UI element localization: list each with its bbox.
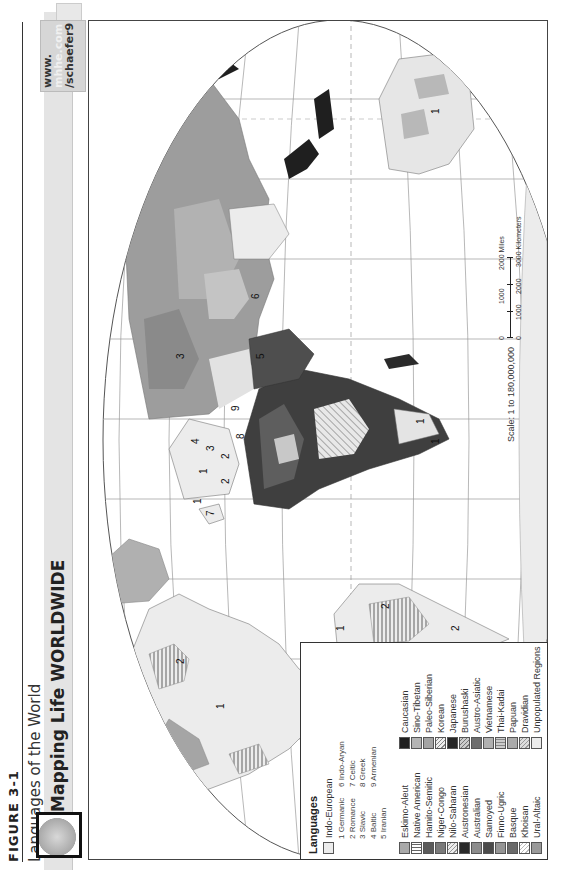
legend-label: Niger-Congo [436,787,446,838]
swatch [483,737,494,749]
swatch [447,737,458,749]
swatch [519,737,530,749]
legend-label: Burushaski [460,688,470,733]
subgroup-germanic: 1 Germanic [337,798,348,839]
legend-label: Hamito-Semitic [424,777,434,838]
label-south-america-south: 2 [450,625,461,631]
subgroup-iranian: 5 Iranian [379,798,390,839]
url-line3: /schaefer9 [64,23,75,88]
swatch [495,842,506,854]
legend-label: Sino-Tibetan [412,682,422,733]
label-caribbean: 1 [335,625,346,631]
legend-label: Ural-Altaic [532,796,542,838]
url-link[interactable]: www. mhhe.com /schaefer9 [42,23,75,88]
legend-label: Caucasian [400,690,410,733]
scale-bar [510,258,511,338]
legend-item: Thai-Kadai [495,689,506,749]
legend-item: Khoisan [519,805,530,854]
label-armenia: 9 [230,405,241,411]
legend-item: Nilo-Saharan [447,785,458,854]
legend-label: Samoyed [484,800,494,838]
banner-title: Mapping Life WORLDWIDE [48,560,68,812]
legend-item: Australian [471,798,482,854]
label-greece: 8 [235,433,246,439]
swatch [531,842,542,854]
label-iran: 5 [255,353,266,359]
legend-item: Vietnamese [483,686,494,749]
miles-tick-1000: 1000 [498,288,505,304]
miles-tick-2000: 2000 Miles [498,236,505,270]
label-south-africa-west: 1 [430,438,441,444]
legend-label: Thai-Kadai [496,689,506,733]
legend-label: Japanese [448,694,458,733]
legend-label: Nilo-Saharan [448,785,458,838]
label-india: 6 [250,293,261,299]
map-legend: Languages Indo-European 1 Germanic 2 Rom… [300,642,548,860]
figure-label: FIGURE 3-1 [6,770,21,862]
legend-label: Australian [472,798,482,838]
scale-tick [507,257,513,258]
legend-item: Ural-Altaic [531,796,542,854]
legend-item: Austro-Asiatic [471,677,482,749]
label-ireland: 7 [205,510,216,516]
swatch [531,737,542,749]
legend-item: Papuan [507,702,518,749]
km-tick-2000: 2000 [515,278,522,294]
legend-item: Native American [411,772,422,854]
scale-indicator: Scale: 1 to 180,000,000 0 1000 2000 Mile… [496,192,536,442]
legend-title: Languages [307,796,319,854]
legend-label: Papuan [508,702,518,733]
legend-item: Austronesian [459,785,470,854]
swatch [507,842,518,854]
legend-label: Native American [412,772,422,838]
swatch [519,842,530,854]
label-quebec: 2 [175,658,186,664]
subgroup-celtic: 7 Celtic [348,741,359,787]
swatch [399,737,410,749]
swatch [435,737,446,749]
legend-item: Hamito-Semitic [423,777,434,854]
km-tick-0: 0 [515,336,522,340]
legend-label: Eskimo-Aleut [400,785,410,838]
label-poland: 3 [205,445,216,451]
legend-label: Finno-Ugric [496,791,506,838]
indo-european-subgroups-right: 6 Indo-Aryan 7 Celtic 8 Greek 9 Armenian [337,741,379,787]
legend-label: Vietnamese [484,686,494,733]
legend-label: Basque [508,807,518,838]
subgroup-greek: 8 Greek [358,741,369,787]
legend-label: Paleo-Siberian [424,674,434,733]
label-brazil: 2 [380,603,391,609]
subgroup-indo-aryan: 6 Indo-Aryan [337,741,348,787]
legend-label: Austronesian [460,785,470,838]
legend-item: Korean [435,704,446,749]
swatch [471,842,482,854]
subgroup-armenian: 9 Armenian [369,741,380,787]
legend-label: Khoisan [520,805,530,838]
legend-item: Basque [507,807,518,854]
scale-tick [507,284,513,285]
label-russia: 3 [175,353,186,359]
legend-item: Sino-Tibetan [411,682,422,749]
swatch [411,737,422,749]
legend-label: Unpopulated Regions [532,646,542,733]
globe-icon [36,812,82,858]
label-australia: 1 [430,108,441,114]
swatch [483,842,494,854]
legend-item: Samoyed [483,800,494,854]
swatch [447,842,458,854]
legend-label: Dravidian [520,695,530,733]
swatch [459,842,470,854]
label-iberia: 2 [220,478,231,484]
legend-label: Austro-Asiatic [472,677,482,733]
miles-tick-0: 0 [498,336,505,340]
label-italy: 2 [220,453,231,459]
figure-rule [22,22,23,862]
swatch [507,737,518,749]
legend-item: Caucasian [399,690,410,749]
swatch [411,842,422,854]
legend-item: Unpopulated Regions [531,646,542,749]
scale-text: Scale: 1 to 180,000,000 [506,347,516,442]
legend-item: Japanese [447,694,458,749]
legend-label: Korean [436,704,446,733]
label-north-america: 1 [215,703,226,709]
